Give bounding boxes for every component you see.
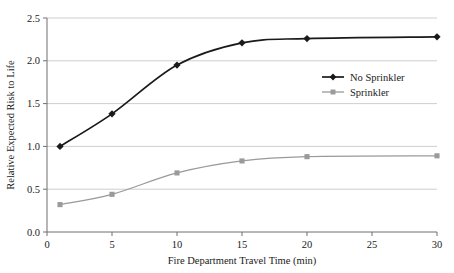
y-tick-label: 1.0: [27, 141, 40, 152]
data-point-marker: [433, 33, 440, 40]
x-tick-label: 0: [44, 239, 49, 250]
data-point-marker: [303, 35, 310, 42]
legend-item-no-sprinkler[interactable]: No Sprinkler: [322, 72, 405, 83]
data-point-marker: [238, 39, 245, 46]
legend-label: No Sprinkler: [350, 72, 405, 83]
data-point-marker: [239, 158, 244, 163]
x-tick-label: 10: [172, 239, 183, 250]
data-series-layer: [56, 33, 440, 207]
data-point-marker: [304, 154, 309, 159]
line-chart: 0.00.51.01.52.02.5 051015202530 Fire Dep…: [0, 0, 454, 273]
data-point-marker: [174, 170, 179, 175]
chart-figure: 0.00.51.01.52.02.5 051015202530 Fire Dep…: [0, 0, 454, 273]
data-point-marker: [109, 192, 114, 197]
legend-item-sprinkler[interactable]: Sprinkler: [322, 87, 390, 98]
y-tick-label: 0.5: [27, 184, 40, 195]
x-tick-label: 5: [109, 239, 114, 250]
data-point-marker: [57, 202, 62, 207]
chart-legend: No SprinklerSprinkler: [322, 72, 405, 98]
x-axis-title: Fire Department Travel Time (min): [168, 255, 317, 267]
y-tick-label: 2.5: [27, 13, 40, 24]
legend-marker-icon: [331, 90, 336, 95]
x-tick-label: 25: [367, 239, 378, 250]
data-point-marker: [434, 153, 439, 158]
legend-label: Sprinkler: [350, 87, 390, 98]
x-tick-label: 30: [432, 239, 443, 250]
y-axis-ticks: 0.00.51.01.52.02.5: [27, 13, 47, 238]
y-tick-label: 1.5: [27, 98, 40, 109]
x-axis-ticks: 051015202530: [44, 232, 442, 250]
legend-marker-icon: [330, 74, 337, 81]
x-tick-label: 20: [302, 239, 313, 250]
y-axis-title: Relative Expected Risk to Life: [5, 60, 16, 190]
data-point-marker: [173, 61, 180, 68]
series-line: [60, 156, 437, 205]
y-tick-label: 0.0: [27, 227, 40, 238]
y-tick-label: 2.0: [27, 55, 40, 66]
x-tick-label: 15: [237, 239, 248, 250]
series-sprinkler: [57, 153, 439, 207]
